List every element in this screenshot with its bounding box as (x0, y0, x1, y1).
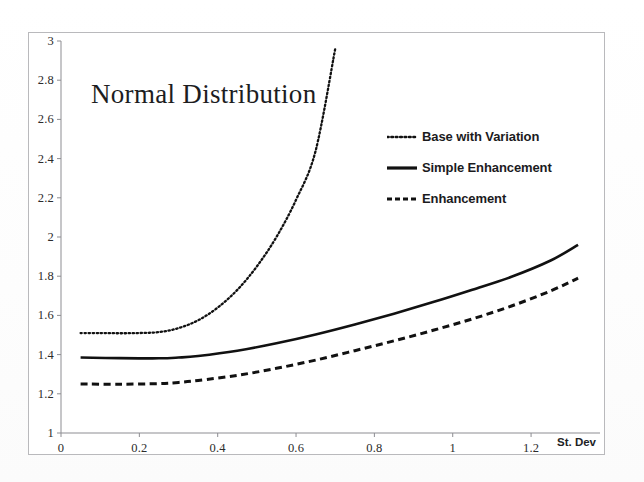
y-axis-tick-label: 2.2 (29, 190, 54, 205)
x-axis-tick-label: 0 (58, 441, 64, 456)
legend-item-label: Base with Variation (422, 129, 539, 144)
legend-item[interactable]: Base with Variation (387, 121, 617, 152)
x-axis-tick-label: 0.6 (288, 441, 304, 456)
series-line-solid (81, 245, 578, 359)
y-axis-tick-label: 2 (29, 230, 54, 245)
y-axis-tick-label: 3 (29, 34, 54, 49)
x-axis-tick-label: 0.8 (366, 441, 382, 456)
legend-item-label: Simple Enhancement (422, 160, 552, 175)
y-axis-tick-label: 1 (29, 426, 54, 441)
chart-frame: 11.21.41.61.822.22.42.62.83 00.20.40.60.… (28, 32, 605, 455)
chart-title: Normal Distribution (91, 79, 316, 110)
legend-item[interactable]: Enhancement (387, 183, 617, 214)
x-axis-tick-label: 0.2 (131, 441, 147, 456)
y-axis-tick-label: 1.8 (29, 269, 54, 284)
y-axis-tick-label: 1.4 (29, 347, 54, 362)
legend-line-sample-solid-icon (387, 162, 417, 174)
y-axis-tick-label: 2.4 (29, 151, 54, 166)
chart-legend: Base with VariationSimple EnhancementEnh… (387, 121, 617, 214)
y-axis-tick-label: 2.8 (29, 73, 54, 88)
chart-container: 11.21.41.61.822.22.42.62.83 00.20.40.60.… (0, 0, 644, 482)
legend-item[interactable]: Simple Enhancement (387, 152, 617, 183)
legend-line-sample-dashed-icon (387, 193, 417, 205)
y-axis-tick-label: 2.6 (29, 112, 54, 127)
x-axis-tick-label: 1 (449, 441, 455, 456)
y-axis-tick-label: 1.6 (29, 308, 54, 323)
y-axis-tick-label: 1.2 (29, 386, 54, 401)
legend-item-label: Enhancement (422, 191, 506, 206)
x-axis-title: St. Dev (557, 436, 596, 448)
x-axis-tick-label: 0.4 (210, 441, 226, 456)
x-axis-tick-label: 1.2 (523, 441, 539, 456)
legend-line-sample-dotted-icon (387, 131, 417, 143)
